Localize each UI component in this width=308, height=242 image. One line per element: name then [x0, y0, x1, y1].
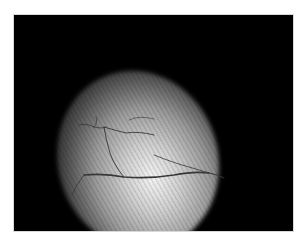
scan-line-texture [14, 15, 293, 231]
photo-frame [14, 15, 293, 231]
